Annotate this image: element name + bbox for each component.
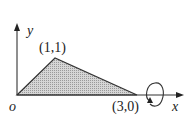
x-axis-arrow-icon	[176, 92, 184, 98]
y-axis-arrow-icon	[14, 23, 20, 31]
diagram-canvas: y x o (1,1) (3,0)	[0, 0, 193, 119]
y-axis-label: y	[25, 23, 34, 38]
vertex-label-3-0: (3,0)	[112, 99, 139, 115]
x-axis-label: x	[171, 99, 179, 114]
vertex-label-1-1: (1,1)	[39, 40, 66, 56]
origin-label: o	[9, 99, 16, 114]
shaded-triangle-region	[17, 58, 137, 95]
